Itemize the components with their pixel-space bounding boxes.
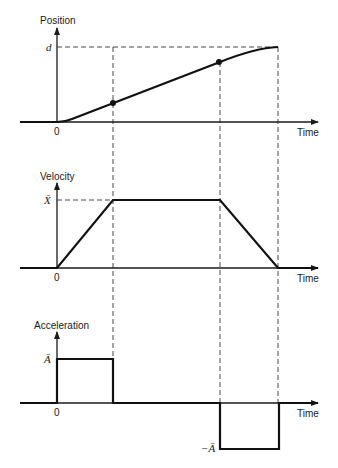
acceleration-x-label: Time xyxy=(297,408,319,419)
acceleration-curve xyxy=(20,359,318,449)
position-marker-2 xyxy=(216,59,222,65)
velocity-panel: Velocity X̄ 0 Time xyxy=(20,171,319,284)
position-d-label: d xyxy=(46,41,52,53)
acceleration-min-label: −Ā xyxy=(201,442,215,454)
position-origin-label: 0 xyxy=(54,126,60,137)
acceleration-y-label: Acceleration xyxy=(34,320,89,331)
position-curve xyxy=(20,47,278,122)
acceleration-max-label: Ā xyxy=(43,353,51,365)
velocity-max-label: X̄ xyxy=(43,194,52,206)
position-panel: Position d 0 Time xyxy=(20,15,319,138)
position-marker-1 xyxy=(110,100,116,106)
acceleration-origin-label: 0 xyxy=(54,407,60,418)
acceleration-panel: Acceleration Ā −Ā 0 Time xyxy=(20,320,319,454)
position-x-label: Time xyxy=(297,127,319,138)
velocity-origin-label: 0 xyxy=(54,272,60,283)
velocity-y-label: Velocity xyxy=(40,171,74,182)
guide-lines xyxy=(113,47,278,449)
velocity-curve xyxy=(20,200,318,268)
position-y-label: Position xyxy=(40,15,76,26)
velocity-x-label: Time xyxy=(297,273,319,284)
motion-profile-diagram: Position d 0 Time Velocity X̄ 0 Time Acc… xyxy=(0,0,338,468)
